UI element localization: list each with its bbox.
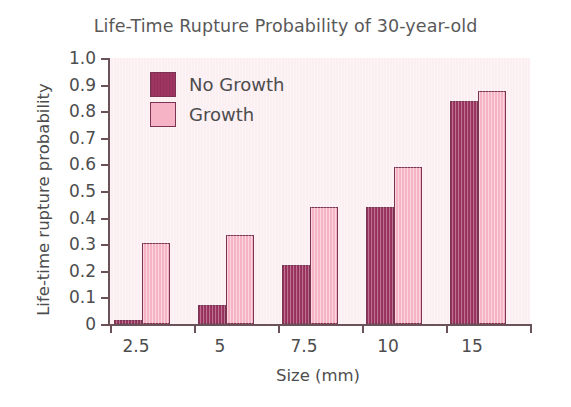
y-axis-title: Life-time rupture probability (34, 65, 53, 335)
bar (142, 243, 170, 324)
x-axis-tick-label: 2.5 (122, 336, 149, 356)
y-axis-tick (101, 271, 110, 273)
y-axis-tick (101, 218, 110, 220)
y-axis-tick-label: 0.7 (69, 128, 96, 148)
y-axis-tick (101, 191, 110, 193)
x-axis-tick (362, 324, 364, 333)
y-axis-tick (101, 58, 110, 60)
bar (310, 207, 338, 324)
x-axis-title: Size (mm) (108, 366, 528, 385)
y-axis-tick-label: 0.9 (69, 75, 96, 95)
y-axis-tick (101, 244, 110, 246)
x-axis-tick (194, 324, 196, 333)
y-axis-tick (101, 324, 110, 326)
chart-title: Life-Time Rupture Probability of 30-year… (0, 16, 571, 36)
x-axis-tick-label: 5 (215, 336, 226, 356)
y-axis-tick (101, 111, 110, 113)
y-axis-tick (101, 164, 110, 166)
y-axis-tick (101, 297, 110, 299)
legend-label: Growth (189, 106, 254, 124)
y-axis-tick-label: 0 (85, 314, 96, 334)
legend-item: Growth (150, 102, 284, 127)
y-axis-tick-label: 0.1 (69, 287, 96, 307)
bar (478, 91, 506, 324)
bar (282, 265, 310, 324)
y-axis-tick-label: 1.0 (69, 48, 96, 68)
bar (114, 320, 142, 324)
y-axis-tick (101, 138, 110, 140)
x-axis-tick-label: 15 (461, 336, 483, 356)
y-axis-tick-label: 0.5 (69, 181, 96, 201)
x-axis-tick (278, 324, 280, 333)
x-axis-tick-label: 10 (377, 336, 399, 356)
chart-figure: Life-Time Rupture Probability of 30-year… (0, 0, 571, 407)
bar (226, 235, 254, 324)
bar (450, 101, 478, 324)
y-axis-tick-label: 0.2 (69, 261, 96, 281)
legend-item: No Growth (150, 72, 284, 97)
legend-swatch-growth (150, 102, 176, 127)
y-axis-tick-label: 0.4 (69, 208, 96, 228)
y-axis-tick-label: 0.8 (69, 101, 96, 121)
bar (198, 305, 226, 324)
legend-label: No Growth (189, 76, 284, 94)
x-axis-tick (530, 324, 532, 333)
bar (366, 207, 394, 324)
bar (394, 167, 422, 324)
y-axis-tick-label: 0.6 (69, 154, 96, 174)
y-axis-tick-label: 0.3 (69, 234, 96, 254)
y-axis-tick (101, 85, 110, 87)
chart-legend: No GrowthGrowth (150, 72, 284, 132)
legend-swatch-no-growth (150, 72, 176, 97)
x-axis-tick (110, 324, 112, 333)
x-axis-tick (446, 324, 448, 333)
x-axis-tick-label: 7.5 (290, 336, 317, 356)
